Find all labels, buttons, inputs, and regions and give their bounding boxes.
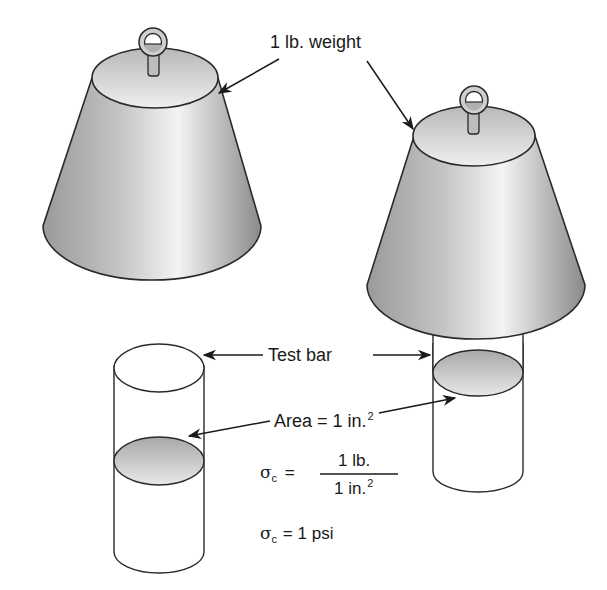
left-test-bar-area (114, 437, 204, 485)
compressive-stress-diagram (0, 0, 607, 590)
left-test-bar-top (114, 344, 204, 392)
arrow-weight-left (219, 59, 279, 93)
area-label: Area = 1 in.2 (274, 412, 374, 430)
arrow-weight-right (367, 61, 413, 129)
test-bar-label: Test bar (268, 346, 332, 364)
sigma-symbol: σ (260, 462, 272, 482)
left-test-bar (114, 344, 204, 573)
weight-label: 1 lb. weight (270, 33, 361, 51)
left-weight (43, 28, 261, 280)
stress-equation: σc = (260, 464, 295, 481)
right-test-bar (433, 343, 523, 492)
stress-result: σc = 1 psi (260, 525, 333, 542)
fraction-numerator: 1 lb. (338, 452, 370, 469)
right-weight (367, 86, 585, 372)
right-test-bar-area (433, 350, 523, 396)
fraction-denominator: 1 in.2 (334, 480, 373, 497)
